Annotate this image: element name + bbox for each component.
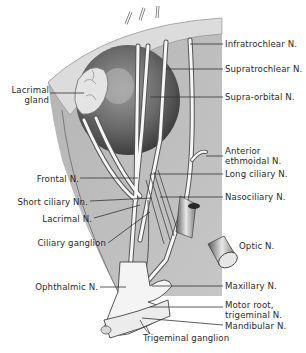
label-ciliary-ganglion: Ciliary ganglion <box>38 238 106 248</box>
label-frontal-nerve: Frontal N. <box>37 174 79 184</box>
label-lacrimal-nerve: Lacrimal N. <box>42 214 92 224</box>
label-supraorbital-nerve: Supra-orbital N. <box>225 92 295 102</box>
label-mandibular-nerve: Mandibular N. <box>225 321 286 331</box>
label-line: Motor root, <box>225 300 282 310</box>
label-lacrimal-gland: Lacrimal gland <box>11 85 49 105</box>
label-anterior-ethmoidal-nerve: Anterior ethmoidal N. <box>225 146 281 166</box>
label-nasociliary-nerve: Nasociliary N. <box>225 192 286 202</box>
label-line: trigeminal N. <box>225 310 282 320</box>
label-motor-root-trigeminal: Motor root, trigeminal N. <box>225 300 282 320</box>
label-line: Lacrimal <box>11 85 49 95</box>
label-long-ciliary-nerve: Long ciliary N. <box>225 169 288 179</box>
label-line: ethmoidal N. <box>225 156 281 166</box>
label-maxillary-nerve: Maxillary N. <box>225 281 277 291</box>
label-trigeminal-ganglion: Trigeminal ganglion <box>143 333 229 343</box>
label-ophthalmic-nerve: Ophthalmic N. <box>35 282 98 292</box>
label-line: Anterior <box>225 146 281 156</box>
label-optic-nerve: Optic N. <box>239 241 274 251</box>
label-supratrochlear-nerve: Supratrochlear N. <box>225 64 302 74</box>
label-short-ciliary-nerves: Short ciliary Nn. <box>17 197 88 207</box>
label-line: gland <box>11 95 49 105</box>
label-infratrochlear-nerve: Infratrochlear N. <box>225 39 297 49</box>
